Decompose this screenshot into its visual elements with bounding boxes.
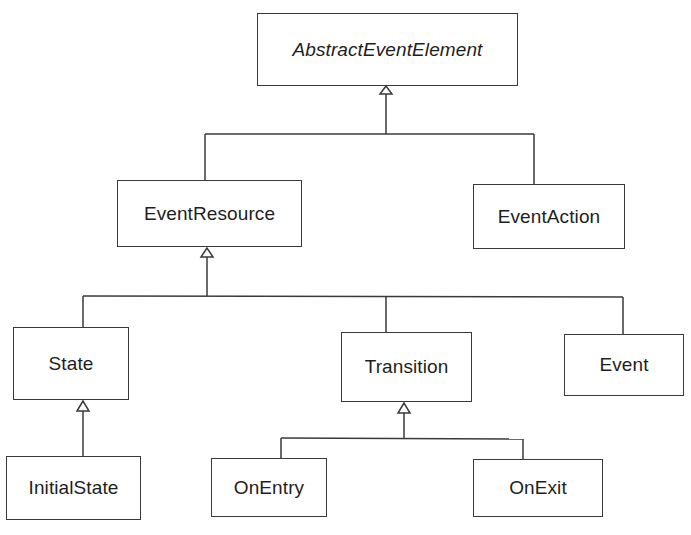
class-name: EventResource [144,203,275,225]
class-name: State [49,353,94,375]
class-on-entry: OnEntry [211,458,327,517]
class-transition: Transition [341,332,472,402]
connector-bus [83,296,623,297]
class-name: Transition [365,356,449,378]
generalization-arrow-icon [398,403,410,413]
class-diagram: AbstractEventElement EventResource Event… [0,0,691,535]
class-initial-state: InitialState [6,456,141,520]
class-abstract-event-element: AbstractEventElement [257,13,518,86]
generalization-arrow-icon [380,86,392,94]
class-event-action: EventAction [473,184,625,249]
class-event-resource: EventResource [117,180,302,247]
class-state: State [13,327,129,400]
generalization-arrow-icon [77,401,89,411]
generalization-arrow-icon [201,248,213,257]
class-name: Event [599,354,648,376]
connector-bus [281,438,523,439]
class-name: OnEntry [234,477,304,499]
class-name: OnExit [509,477,567,499]
class-name: InitialState [29,477,119,499]
class-event: Event [564,334,684,396]
class-on-exit: OnExit [473,459,603,517]
class-name: EventAction [498,206,601,228]
class-name: AbstractEventElement [293,39,483,61]
